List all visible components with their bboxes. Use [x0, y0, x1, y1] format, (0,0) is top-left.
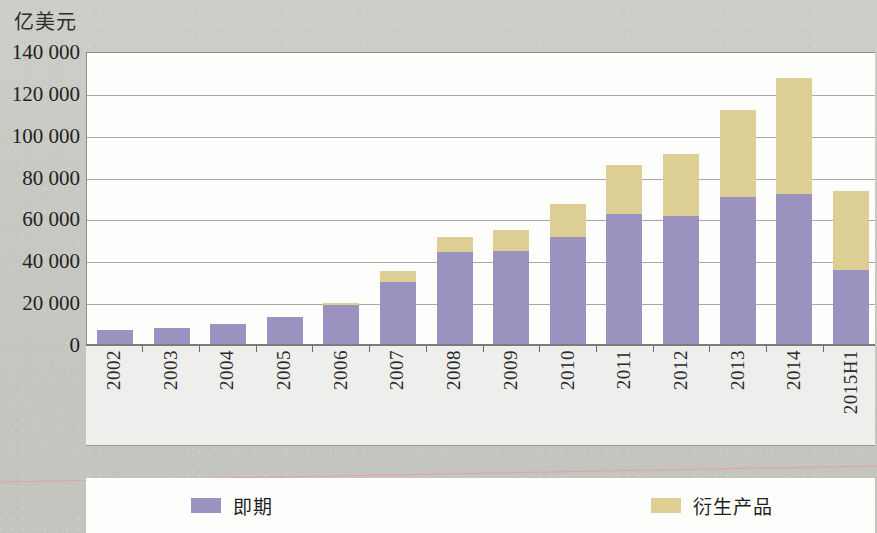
x-axis-tick-label-text: 2008 — [443, 350, 465, 390]
bar-column[interactable] — [833, 53, 869, 345]
bar-segment-spot[interactable] — [323, 305, 359, 345]
bar-segment-spot[interactable] — [267, 317, 303, 345]
y-axis-tick-label: 0 — [0, 333, 80, 358]
bar-segment-derivatives[interactable] — [606, 165, 642, 214]
bar-column[interactable] — [663, 53, 699, 345]
bar-segment-derivatives[interactable] — [380, 271, 416, 283]
x-axis-tick-label: 2007 — [379, 346, 415, 445]
y-axis-tick-label: 120 000 — [0, 81, 80, 106]
bar-segment-derivatives[interactable] — [833, 191, 869, 269]
x-axis-tick-label-text: 2011 — [613, 350, 635, 389]
x-axis-tick-label: 2006 — [323, 346, 359, 445]
bar-column[interactable] — [97, 53, 133, 345]
x-axis-tick-label: 2003 — [153, 346, 189, 445]
bar-segment-derivatives[interactable] — [493, 230, 529, 251]
bar-segment-derivatives[interactable] — [663, 154, 699, 217]
y-axis-tick-label: 140 000 — [0, 40, 80, 65]
bar-segment-spot[interactable] — [97, 330, 133, 345]
bar-segment-spot[interactable] — [663, 216, 699, 345]
legend-item[interactable]: 衍生产品 — [651, 492, 773, 519]
y-axis-labels: 140 000120 000100 00080 00060 00040 0002… — [0, 0, 80, 533]
x-axis-tick-label-text: 2010 — [557, 350, 579, 390]
bar-column[interactable] — [720, 53, 756, 345]
x-axis-tick-label-text: 2013 — [727, 350, 749, 390]
x-axis-tick-label-text: 2003 — [160, 350, 182, 390]
bar-column[interactable] — [380, 53, 416, 345]
bar-column[interactable] — [154, 53, 190, 345]
chart-page: 亿美元 140 000120 000100 00080 00060 00040 … — [0, 0, 877, 533]
bar-segment-derivatives[interactable] — [437, 237, 473, 252]
bar-segment-spot[interactable] — [776, 194, 812, 345]
bar-column[interactable] — [606, 53, 642, 345]
bar-column[interactable] — [210, 53, 246, 345]
y-axis-tick-label: 60 000 — [0, 207, 80, 232]
legend-swatch — [651, 498, 681, 513]
chart-legend: 即期衍生产品 — [86, 478, 875, 533]
x-axis-tick-label: 2004 — [209, 346, 245, 445]
x-axis-tick-label-text: 2007 — [386, 350, 408, 390]
y-axis-tick-label: 80 000 — [0, 165, 80, 190]
x-axis-tick-label-text: 2002 — [103, 350, 125, 390]
x-axis-tick-label: 2015H1 — [833, 346, 869, 445]
y-axis-tick-label: 20 000 — [0, 291, 80, 316]
bar-segment-spot[interactable] — [437, 252, 473, 345]
plot-area — [86, 52, 875, 345]
bar-segment-spot[interactable] — [380, 282, 416, 345]
bar-column[interactable] — [776, 53, 812, 345]
x-axis-tick-label-text: 2014 — [783, 350, 805, 390]
x-axis-tick-label: 2011 — [606, 346, 642, 445]
bar-segment-spot[interactable] — [154, 328, 190, 345]
x-axis-tick-label: 2002 — [96, 346, 132, 445]
x-axis-tick-label: 2010 — [550, 346, 586, 445]
x-axis-tick-label-text: 2004 — [216, 350, 238, 390]
bar-series-group — [87, 53, 875, 345]
x-axis-labels: 2002200320042005200620072008200920102011… — [86, 346, 875, 445]
y-axis-tick-label: 100 000 — [0, 123, 80, 148]
y-axis-tick-label: 40 000 — [0, 249, 80, 274]
legend-label: 即期 — [233, 492, 273, 519]
x-axis-tick-label-text: 2006 — [330, 350, 352, 390]
bar-column[interactable] — [267, 53, 303, 345]
bar-column[interactable] — [437, 53, 473, 345]
legend-item[interactable]: 即期 — [191, 492, 273, 519]
bar-segment-spot[interactable] — [210, 324, 246, 345]
bar-segment-spot[interactable] — [606, 214, 642, 345]
x-axis-tick-label: 2014 — [776, 346, 812, 445]
x-axis-tick-label-text: 2009 — [500, 350, 522, 390]
bar-segment-spot[interactable] — [720, 197, 756, 345]
bar-segment-spot[interactable] — [493, 251, 529, 345]
bar-segment-derivatives[interactable] — [720, 110, 756, 198]
x-axis-tick-label-text: 2012 — [670, 350, 692, 390]
x-axis-tick-label: 2012 — [663, 346, 699, 445]
x-axis-tick-label: 2009 — [493, 346, 529, 445]
bar-segment-derivatives[interactable] — [550, 204, 586, 237]
bar-segment-derivatives[interactable] — [776, 78, 812, 194]
x-axis-tick-label: 2008 — [436, 346, 472, 445]
x-axis-tick-label-text: 2015H1 — [840, 350, 862, 414]
bar-column[interactable] — [550, 53, 586, 345]
bar-column[interactable] — [493, 53, 529, 345]
x-axis-tick-label: 2005 — [266, 346, 302, 445]
legend-swatch — [191, 498, 221, 513]
x-axis-tick-label-text: 2005 — [273, 350, 295, 390]
legend-label: 衍生产品 — [693, 492, 773, 519]
bar-segment-spot[interactable] — [833, 270, 869, 345]
x-axis-tick-label: 2013 — [720, 346, 756, 445]
bar-segment-spot[interactable] — [550, 237, 586, 345]
bar-column[interactable] — [323, 53, 359, 345]
